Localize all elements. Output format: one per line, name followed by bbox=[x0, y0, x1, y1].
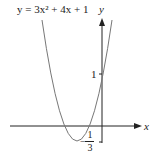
y-axis-arrow-icon bbox=[99, 18, 105, 26]
y-axis-label: y bbox=[99, 4, 104, 15]
x-axis-arrow-icon bbox=[134, 123, 142, 129]
x-axis-label: x bbox=[144, 121, 149, 132]
min-label-denominator: 3 bbox=[85, 143, 95, 153]
graph-svg bbox=[0, 0, 151, 156]
equation-label: y = 3x² + 4x + 1 bbox=[17, 4, 88, 15]
min-label-numerator: 1 bbox=[85, 130, 95, 140]
y-intercept-label: 1 bbox=[91, 69, 97, 80]
graph-figure: y = 3x² + 4x + 1 y x 1 − 1 3 bbox=[0, 0, 151, 156]
